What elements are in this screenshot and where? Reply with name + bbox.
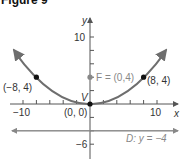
y-ticks: [90, 37, 94, 144]
tick-label-y-neg6: −6: [76, 139, 88, 150]
label-origin: (0, 0): [64, 107, 87, 118]
point-right: [141, 75, 146, 80]
tick-label-x-neg10: −10: [13, 107, 30, 118]
label-vertex: V: [81, 92, 89, 103]
vertex-point: [87, 101, 92, 106]
parabola-chart: y x 10 −6 −10 10 (−8, 4) (8, 4) F = (0,4…: [0, 0, 186, 159]
label-focus: F = (0,4): [96, 72, 134, 83]
label-point-right: (8, 4): [147, 75, 170, 86]
label-point-left: (−8, 4): [3, 82, 32, 93]
label-directrix: D: y = −4: [126, 133, 167, 144]
point-left: [34, 75, 39, 80]
y-axis-label: y: [81, 15, 88, 26]
x-axis-label: x: [173, 108, 180, 119]
tick-label-y-10: 10: [74, 32, 86, 43]
focus-point: [87, 75, 92, 80]
tick-label-x-10: 10: [150, 107, 162, 118]
